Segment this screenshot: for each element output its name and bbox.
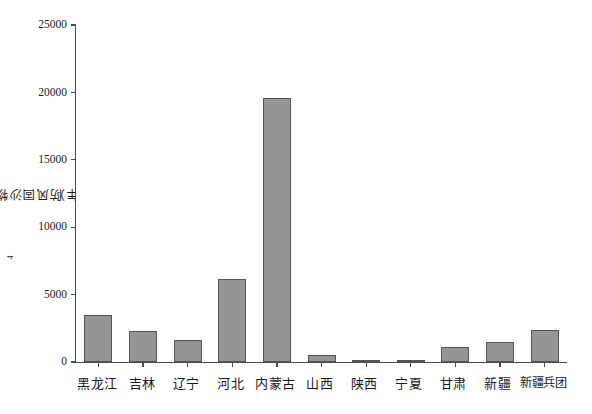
x-axis-label-text: 内蒙古 [255,373,295,392]
x-axis-tick-mark [410,362,411,367]
bar[interactable] [308,355,336,362]
x-axis-label-text: 吉林 [129,373,155,392]
x-axis-label: 宁夏 [386,373,430,397]
y-axis-tick-label: 5000 [44,289,71,301]
x-axis-tick-mark [142,362,143,367]
bar-slot [522,26,567,362]
y-axis-title-prefix: 防风固沙物质量（×10 [0,186,62,205]
bar[interactable] [129,331,157,362]
bar-slot [299,26,344,362]
x-axis-label-text: 河北 [217,373,243,392]
y-axis-title-exponent: 4 [6,255,15,259]
y-axis-tick-label: 20000 [38,87,71,99]
bar-slot [255,26,300,362]
y-axis-tick-label: 25000 [38,19,71,31]
bar-slot [433,26,478,362]
x-axis-label-text: 新疆兵团 [520,373,567,391]
x-axis-label-text: 黑龙江 [77,373,117,392]
bar[interactable] [218,279,246,362]
bar-slot [478,26,523,362]
bar[interactable] [441,347,469,362]
x-axis-label-text: 陕西 [351,373,377,392]
x-axis-label: 新疆 [475,373,519,397]
x-axis-label: 甘肃 [431,373,475,397]
x-axis-tick-mark [499,362,500,367]
x-axis-label: 辽宁 [164,373,208,397]
y-axis-title: 防风固沙物质量（×104 吨/年） [0,0,30,390]
x-axis-tick-mark [232,362,233,367]
x-axis-label: 内蒙古 [253,373,297,397]
bar-slot [121,26,166,362]
y-axis-tick-label: 10000 [38,221,71,233]
bar-slot [388,26,433,362]
bar-slot [165,26,210,362]
bar[interactable] [486,342,514,362]
y-axis-tick-label: 0 [61,356,71,368]
x-axis-label-text: 宁夏 [395,373,421,392]
x-axis-label: 河北 [208,373,252,397]
x-axis-tick-mark [455,362,456,367]
x-axis-label: 吉林 [119,373,163,397]
bar[interactable] [84,315,112,362]
x-axis-label: 新疆兵团 [520,373,567,397]
x-axis-label: 陕西 [342,373,386,397]
bar-slot [76,26,121,362]
bar[interactable] [263,98,291,362]
x-axis-tick-mark [321,362,322,367]
x-axis-labels: 黑龙江吉林辽宁河北内蒙古山西陕西宁夏甘肃新疆新疆兵团 [75,373,567,397]
bar-chart: 防风固沙物质量（×104 吨/年） 0500010000150002000025… [0,0,592,414]
x-axis-label: 山西 [297,373,341,397]
bar-slot [344,26,389,362]
x-axis-tick-mark [187,362,188,367]
bar-slot [210,26,255,362]
x-axis-label-text: 新疆 [484,373,510,392]
x-axis-tick-mark [366,362,367,367]
plot-area: 0500010000150002000025000 [75,26,567,363]
x-axis-label: 黑龙江 [75,373,119,397]
x-axis-label-text: 山西 [306,373,332,392]
bar[interactable] [531,330,559,362]
x-axis-tick-mark [544,362,545,367]
y-axis-tick-label: 15000 [38,154,71,166]
x-axis-label-text: 辽宁 [173,373,199,392]
x-axis-tick-mark [98,362,99,367]
bars-layer [76,26,567,362]
bar[interactable] [174,340,202,362]
x-axis-tick-mark [276,362,277,367]
x-axis-label-text: 甘肃 [440,373,466,392]
